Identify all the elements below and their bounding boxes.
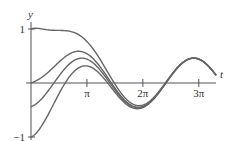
x-axis-label: t xyxy=(220,68,224,80)
y-axis-label: y xyxy=(27,8,33,20)
x-tick-label: 3π xyxy=(193,87,205,99)
y-tick-label: −1 xyxy=(13,131,25,141)
chart: π2π3π1−1 y t xyxy=(0,0,233,141)
y-tick-label: 1 xyxy=(20,23,26,35)
x-tick-label: 2π xyxy=(137,87,149,99)
solution-curve xyxy=(31,58,216,137)
x-tick-label: π xyxy=(84,87,90,99)
